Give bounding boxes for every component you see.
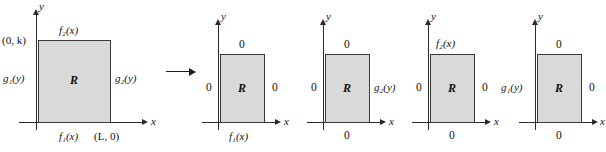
x-axis-label: x [600,116,605,127]
boundary-label-top: f₂(x) [436,38,455,49]
y-axis [323,24,324,130]
boundary-label-right: 0 [272,82,278,94]
panel-original-problem: y x R f₂(x) g₁(y) g₂(y) f₁(x) (0, k) (L,… [0,0,166,152]
boundary-label-bottom: 0 [449,130,455,142]
boundary-label-right: 0 [482,82,488,94]
boundary-label-right: g₂(y) [115,73,137,84]
superposition-figure: y x R f₂(x) g₁(y) g₂(y) f₁(x) (0, k) (L,… [0,0,606,152]
region-label: R [238,82,246,94]
y-axis-label: y [221,11,226,22]
boundary-label-left: 0 [416,82,422,94]
y-axis-label: y [538,11,543,22]
boundary-label-left: 0 [311,82,317,94]
panel-subproblem-1: y x R 0 0 0 f₁(x) [196,0,294,152]
y-axis-arrowhead [33,9,39,15]
region-label: R [343,82,351,94]
boundary-label-top: f₂(x) [59,25,78,36]
x-axis-arrowhead [380,119,386,125]
y-axis-arrowhead [425,19,431,25]
x-axis-label: x [389,116,394,127]
region-label: R [70,74,78,86]
y-axis-label: y [431,11,436,22]
panel-subproblem-2: y x R 0 0 g₂(y) 0 [301,0,399,152]
boundary-label-top: 0 [344,39,350,51]
boundary-label-left: g₁(y) [3,73,25,84]
y-axis [218,24,219,130]
boundary-label-bottom: f₁(x) [229,131,248,142]
x-axis-label: x [494,116,499,127]
panel-subproblem-3: y x R f₂(x) 0 0 0 [406,0,504,152]
y-axis-arrowhead [532,19,538,25]
x-axis-arrowhead [485,119,491,125]
boundary-label-right: g₂(y) [374,82,396,93]
corner-point-top-left: (0, k) [2,35,26,46]
boundary-label-bottom: f₁(x) [59,131,78,142]
y-axis [428,24,429,130]
boundary-label-top: 0 [239,39,245,51]
boundary-label-bottom: 0 [556,130,562,142]
boundary-label-right: 0 [589,82,595,94]
region-label: R [448,82,456,94]
y-axis-arrowhead [215,19,221,25]
boundary-label-left: 0 [206,82,212,94]
y-axis-label: y [39,1,44,12]
region-label: R [555,82,563,94]
x-axis-arrowhead [142,119,148,125]
boundary-label-bottom: 0 [344,130,350,142]
y-axis-arrowhead [320,19,326,25]
boundary-label-top: 0 [556,39,562,51]
y-axis [535,24,536,130]
panel-subproblem-4: y x R 0 g₁(y) 0 0 [508,0,606,152]
x-axis-arrowhead [592,119,598,125]
x-axis-label: x [284,116,289,127]
y-axis [36,14,37,130]
x-axis-label: x [151,116,156,127]
boundary-label-left: g₁(y) [501,82,523,93]
corner-point-bottom-right: (L, 0) [94,131,119,142]
x-axis-arrowhead [275,119,281,125]
transition-arrow-icon [166,71,190,72]
y-axis-label: y [326,11,331,22]
